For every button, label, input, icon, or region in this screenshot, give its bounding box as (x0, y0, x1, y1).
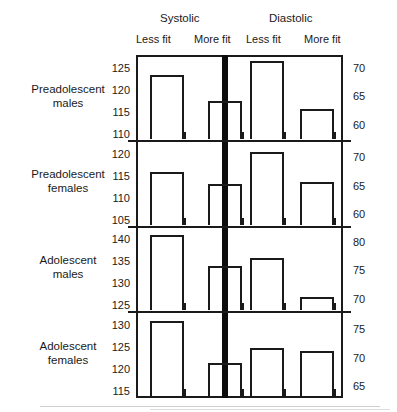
chart-panel (136, 141, 343, 227)
panel-separator (128, 226, 351, 228)
axis-tick (284, 132, 286, 139)
axis-tick (208, 303, 210, 310)
axis-tick (208, 389, 210, 396)
axis-tick (284, 218, 286, 225)
bar-systolic-more-fit (208, 266, 242, 310)
chart-plot-area (136, 55, 343, 398)
axis-tick (334, 132, 336, 139)
axis-tick (250, 303, 252, 310)
axis-label-diastolic: 70 (353, 352, 383, 364)
axis-label-systolic: 130 (100, 319, 130, 331)
axis-tick (300, 218, 302, 225)
bar-systolic-less-fit (150, 235, 184, 310)
group-header-systolic: Systolic (160, 12, 200, 24)
axis-label-systolic: 115 (100, 170, 130, 182)
subheader-diastolic-less-fit: Less fit (246, 33, 281, 45)
axis-label-systolic: 120 (100, 84, 130, 96)
axis-label-diastolic: 65 (353, 180, 383, 192)
axis-label-systolic: 115 (100, 106, 130, 118)
bar-diastolic-less-fit (250, 348, 284, 396)
axis-label-diastolic: 60 (353, 208, 383, 220)
axis-tick (150, 132, 152, 139)
axis-label-diastolic: 70 (353, 151, 383, 163)
subheader-systolic-less-fit: Less fit (136, 33, 171, 45)
axis-label-systolic: 125 (100, 62, 130, 74)
axis-label-diastolic: 65 (353, 380, 383, 392)
axis-tick (150, 389, 152, 396)
axis-label-diastolic: 70 (353, 62, 383, 74)
bar-diastolic-more-fit (300, 182, 334, 225)
axis-tick (334, 389, 336, 396)
axis-tick (184, 218, 186, 225)
bar-diastolic-more-fit (300, 297, 334, 310)
axis-tick (300, 389, 302, 396)
chart-panel (136, 55, 343, 141)
axis-label-diastolic: 60 (353, 119, 383, 131)
axis-tick (208, 218, 210, 225)
axis-tick (242, 389, 244, 396)
axis-tick (242, 303, 244, 310)
bar-diastolic-more-fit (300, 109, 334, 138)
axis-tick (150, 303, 152, 310)
page-edge-line-2 (150, 409, 390, 410)
axis-tick (300, 303, 302, 310)
axis-label-diastolic: 75 (353, 323, 383, 335)
axis-label-systolic: 115 (100, 385, 130, 397)
bar-diastolic-more-fit (300, 351, 334, 396)
subheader-diastolic-more-fit: More fit (304, 33, 341, 45)
axis-tick (184, 132, 186, 139)
axis-tick (284, 389, 286, 396)
group-header-diastolic: Diastolic (269, 12, 312, 24)
chart-panel (136, 312, 343, 398)
bar-systolic-less-fit (150, 75, 184, 139)
bar-systolic-less-fit (150, 172, 184, 225)
axis-tick (250, 218, 252, 225)
bar-systolic-more-fit (208, 101, 242, 139)
axis-label-systolic: 105 (100, 214, 130, 226)
axis-tick (242, 132, 244, 139)
panel-separator (128, 140, 351, 142)
axis-label-systolic: 140 (100, 233, 130, 245)
bar-systolic-less-fit (150, 321, 184, 396)
axis-tick (242, 218, 244, 225)
axis-tick (250, 132, 252, 139)
subheader-systolic-more-fit: More fit (194, 33, 231, 45)
axis-label-systolic: 120 (100, 363, 130, 375)
chart-panel (136, 227, 343, 313)
axis-tick (150, 218, 152, 225)
axis-tick (284, 303, 286, 310)
axis-label-systolic: 125 (100, 341, 130, 353)
bar-systolic-more-fit (208, 184, 242, 225)
chart-header: Systolic Diastolic Less fit More fit Les… (0, 0, 397, 50)
axis-tick (334, 303, 336, 310)
axis-tick (250, 389, 252, 396)
axis-label-systolic: 110 (100, 192, 130, 204)
panel-separator (128, 311, 351, 313)
axis-tick (184, 389, 186, 396)
axis-label-diastolic: 65 (353, 90, 383, 102)
page-edge-line (40, 406, 380, 407)
axis-label-diastolic: 75 (353, 264, 383, 276)
bar-diastolic-less-fit (250, 61, 284, 139)
axis-tick (334, 218, 336, 225)
bar-diastolic-less-fit (250, 152, 284, 224)
bar-systolic-more-fit (208, 363, 242, 396)
axis-tick (300, 132, 302, 139)
axis-label-systolic: 120 (100, 148, 130, 160)
axis-tick (184, 303, 186, 310)
axis-label-systolic: 130 (100, 277, 130, 289)
axis-label-diastolic: 70 (353, 293, 383, 305)
axis-label-systolic: 135 (100, 255, 130, 267)
axis-label-diastolic: 80 (353, 236, 383, 248)
axis-label-systolic: 110 (100, 128, 130, 140)
bar-diastolic-less-fit (250, 258, 284, 310)
axis-tick (208, 132, 210, 139)
axis-label-systolic: 125 (100, 299, 130, 311)
